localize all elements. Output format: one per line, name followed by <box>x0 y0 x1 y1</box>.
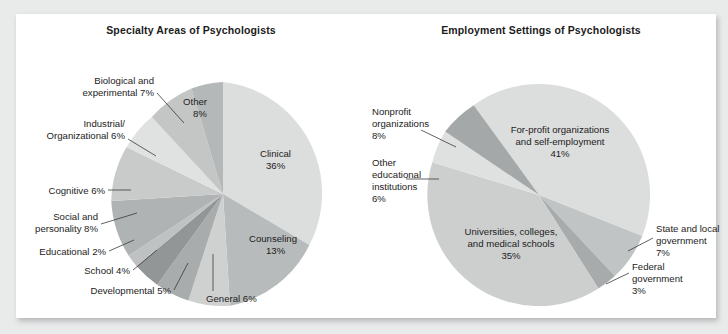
pie-label-other-value: 8% <box>193 108 207 119</box>
pie-label-developmental: Developmental 5% <box>90 285 171 296</box>
pie-label-other-educational-value: 6% <box>372 193 386 204</box>
pie-label-other-educational-line3: institutions <box>372 181 418 192</box>
pie-label-other: Other <box>183 96 208 107</box>
pie-label-nonprofit-line2: organizations <box>372 118 429 129</box>
pie-label-industrial-line1: Industrial/ <box>83 118 125 129</box>
pie-label-federal-line1: Federal <box>632 261 665 272</box>
pie-label-counseling-value: 13% <box>266 245 286 256</box>
pie-label-for-profit-line1: For-profit organizations <box>511 124 610 135</box>
pie-label-other-educational-line2: educational <box>372 169 421 180</box>
pie-label-for-profit-value: 41% <box>550 148 570 159</box>
pie-label-industrial-line2: Organizational 6% <box>47 130 126 141</box>
pie-label-other-educational-line1: Other <box>372 157 397 168</box>
pie-label-state-local-line2: government <box>656 235 707 246</box>
pie-label-nonprofit-line1: Nonprofit <box>372 106 411 117</box>
chart-panel-employment-settings: Employment Settings of Psychologists <box>366 14 716 318</box>
pie-slices-employment <box>427 84 650 306</box>
pie-label-biological-line2: experimental 7% <box>83 87 155 98</box>
figure-background: Specialty Areas of Psychologists <box>0 0 728 334</box>
pie-label-state-local-value: 7% <box>656 247 670 258</box>
pie-label-social-line1: Social and <box>53 211 98 222</box>
pie-label-nonprofit-value: 8% <box>372 130 386 141</box>
pie-label-counseling: Counseling <box>249 233 297 244</box>
pie-label-federal-value: 3% <box>632 285 646 296</box>
chart-panel-specialty-areas: Specialty Areas of Psychologists <box>16 14 366 318</box>
pie-label-educational: Educational 2% <box>39 246 106 257</box>
pie-label-social-line2: personality 8% <box>35 223 98 234</box>
pie-label-for-profit-line2: and self-employment <box>515 136 604 147</box>
pie-label-federal-line2: government <box>632 273 683 284</box>
pie-chart-employment-settings: For-profit organizations and self-employ… <box>366 14 716 318</box>
pie-label-biological-line1: Biological and <box>94 75 154 86</box>
pie-label-universities-value: 35% <box>501 250 521 261</box>
pie-chart-specialty-areas: Clinical 36% Counseling 13% Other 8% Bio… <box>16 14 366 318</box>
figure-plate: Specialty Areas of Psychologists <box>16 14 716 318</box>
pie-label-universities-line1: Universities, colleges, <box>465 226 558 237</box>
pie-label-universities-line2: and medical schools <box>468 238 555 249</box>
pie-label-clinical-value: 36% <box>266 160 286 171</box>
pie-label-school: School 4% <box>84 265 130 276</box>
pie-label-clinical: Clinical <box>260 148 291 159</box>
pie-label-cognitive: Cognitive 6% <box>48 185 105 196</box>
pie-label-general: General 6% <box>206 293 257 304</box>
pie-label-state-local-line1: State and local <box>656 223 719 234</box>
pie-slices-specialty <box>111 82 322 306</box>
